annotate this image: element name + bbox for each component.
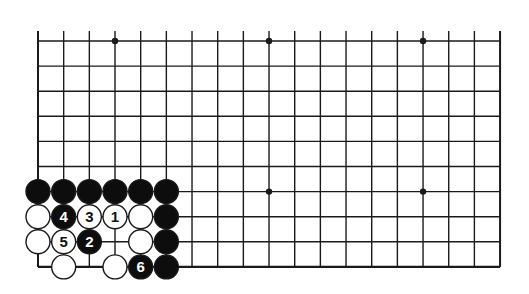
white-stone-move-5: 5 [52, 230, 76, 254]
black-stone [154, 230, 178, 254]
white-stone [103, 255, 127, 279]
black-stone-icon [154, 205, 178, 229]
black-stone [103, 180, 127, 204]
move-number-label: 2 [85, 233, 93, 250]
white-stone [26, 230, 50, 254]
white-stone-icon [52, 255, 76, 279]
black-stone [154, 180, 178, 204]
move-number-label: 5 [59, 233, 67, 250]
white-stone [129, 205, 153, 229]
white-stone [129, 230, 153, 254]
black-stone [26, 180, 50, 204]
stones: 431526 [26, 180, 178, 279]
star-point-icon [420, 38, 426, 44]
white-stone-move-3: 3 [77, 205, 101, 229]
black-stone [52, 180, 76, 204]
black-stone-icon [154, 230, 178, 254]
black-stone-icon [154, 255, 178, 279]
move-number-label: 1 [111, 208, 119, 225]
black-stone [77, 180, 101, 204]
black-stone-icon [129, 180, 153, 204]
white-stone-move-1: 1 [103, 205, 127, 229]
black-stone [129, 180, 153, 204]
grid-lines [38, 31, 500, 267]
white-stone-icon [129, 205, 153, 229]
white-stone [26, 205, 50, 229]
black-stone-icon [26, 180, 50, 204]
black-stone-icon [52, 180, 76, 204]
black-stone-move-4: 4 [52, 205, 76, 229]
black-stone-move-2: 2 [77, 230, 101, 254]
black-stone [154, 205, 178, 229]
star-point-icon [266, 38, 272, 44]
white-stone-icon [26, 230, 50, 254]
move-number-label: 4 [59, 208, 68, 225]
star-point-icon [420, 188, 426, 194]
move-number-label: 6 [137, 258, 145, 275]
star-point-icon [112, 38, 118, 44]
black-stone [154, 255, 178, 279]
star-point-icon [266, 188, 272, 194]
white-stone-icon [103, 255, 127, 279]
black-stone-icon [154, 180, 178, 204]
black-stone-move-6: 6 [129, 255, 153, 279]
go-board: 431526 [0, 0, 529, 294]
move-number-label: 3 [85, 208, 93, 225]
black-stone-icon [103, 180, 127, 204]
black-stone-icon [77, 180, 101, 204]
white-stone [52, 255, 76, 279]
white-stone-icon [26, 205, 50, 229]
white-stone-icon [129, 230, 153, 254]
